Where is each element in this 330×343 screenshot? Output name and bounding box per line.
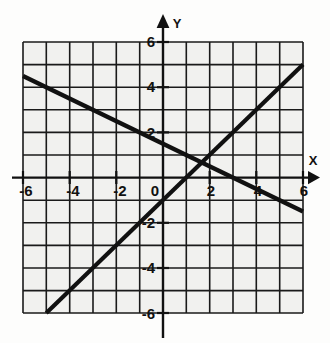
y-tick-label-neg6: -6 [142, 305, 155, 322]
y-tick-label-pos2: 2 [147, 124, 155, 141]
y-tick-label-pos4: 4 [147, 78, 156, 95]
x-tick-label-pos2: 2 [207, 182, 215, 199]
y-tick-label-neg4: -4 [142, 259, 156, 276]
x-tick-label-neg6: -6 [19, 182, 32, 199]
x-tick-label-neg4: -4 [66, 182, 80, 199]
x-tick-label-pos4: 4 [254, 182, 263, 199]
y-tick-label-pos6: 6 [147, 33, 155, 50]
y-axis-arrow-icon [157, 14, 170, 28]
x-tick-label-neg2: -2 [113, 182, 126, 199]
y-axis-label: Y [173, 16, 182, 31]
x-tick-label-pos6: 6 [300, 182, 308, 199]
y-tick-label-neg2: -2 [142, 214, 155, 231]
origin-label: 0 [151, 182, 159, 199]
graph-figure: X Y -6 -4 -2 2 4 6 0 6 4 2 -2 -4 -6 [0, 0, 330, 343]
coordinate-plane-svg: X Y -6 -4 -2 2 4 6 0 6 4 2 -2 -4 -6 [0, 0, 330, 343]
x-axis-label: X [309, 153, 318, 168]
x-axis-arrow-icon [308, 171, 320, 184]
